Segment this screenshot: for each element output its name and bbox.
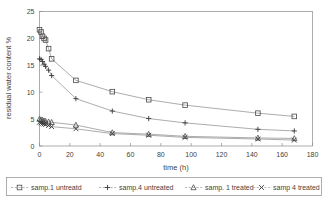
legend-label: samp.4 untreated bbox=[119, 184, 174, 192]
y-tick-label: 15 bbox=[27, 62, 35, 69]
y-tick-label: 5 bbox=[31, 116, 35, 123]
x-tick-label: 160 bbox=[276, 151, 288, 158]
legend-label: samp. 1 treated bbox=[205, 184, 254, 192]
x-axis-title: time (h) bbox=[163, 163, 189, 172]
x-tick-label: 140 bbox=[246, 151, 258, 158]
x-tick-label: 180 bbox=[307, 151, 319, 158]
legend-entries: samp.1 untreatdsamp.4 untreatedsamp. 1 t… bbox=[11, 184, 320, 192]
residual-water-content-line-chart: 0510152025 020406080100120140160180 resi… bbox=[0, 0, 328, 203]
y-tick-label: 0 bbox=[31, 143, 35, 150]
chart-container: 0510152025 020406080100120140160180 resi… bbox=[0, 0, 328, 203]
y-tick-label: 25 bbox=[27, 8, 35, 15]
x-tick-label: 120 bbox=[216, 151, 228, 158]
legend-label: samp 4 treated bbox=[273, 184, 320, 192]
chart-background bbox=[0, 0, 328, 203]
y-axis-title: residual water content % bbox=[4, 37, 13, 119]
x-tick-label: 0 bbox=[38, 151, 42, 158]
y-tick-label: 10 bbox=[27, 89, 35, 96]
x-tick-label: 40 bbox=[96, 151, 104, 158]
x-tick-label: 100 bbox=[185, 151, 197, 158]
x-tick-label: 60 bbox=[127, 151, 135, 158]
x-tick-label: 80 bbox=[157, 151, 165, 158]
x-tick-label: 20 bbox=[66, 151, 74, 158]
legend-label: samp.1 untreatd bbox=[31, 184, 82, 192]
y-tick-label: 20 bbox=[27, 35, 35, 42]
